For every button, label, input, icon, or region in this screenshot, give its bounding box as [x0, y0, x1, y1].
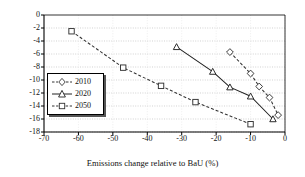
x-axis-tick-label: 0 [283, 135, 287, 143]
legend-marker-diamond-icon [51, 76, 73, 88]
data-point-2020 [210, 68, 216, 74]
data-point-2010 [275, 112, 282, 119]
legend-label-2010: 2010 [73, 78, 91, 86]
data-point-2050 [69, 29, 74, 34]
data-point-2020 [247, 93, 253, 99]
legend-marker-square-icon [51, 100, 73, 112]
series-line-2020 [177, 47, 273, 119]
data-point-2010 [227, 49, 234, 56]
data-point-2050 [193, 99, 198, 104]
chart-legend: 2010 2020 2050 [47, 73, 104, 115]
data-point-2020 [173, 44, 179, 50]
legend-item-2010[interactable]: 2010 [48, 76, 103, 88]
legend-marker-triangle-icon [51, 88, 73, 100]
x-axis-tick-label: -70 [39, 135, 50, 143]
x-axis-tick-label: -40 [142, 135, 153, 143]
legend-item-2020[interactable]: 2020 [48, 88, 103, 100]
legend-label-2050: 2050 [73, 102, 91, 110]
data-point-2050 [248, 122, 253, 127]
data-point-2050 [158, 83, 163, 88]
chart-figure: €/tCO2 0-2-4-6-8-10-12-14-16-18 Emission… [0, 0, 305, 177]
data-point-2050 [120, 65, 125, 70]
x-axis-tick-label: -50 [108, 135, 119, 143]
series-line-2010 [230, 52, 278, 115]
plot-area [0, 0, 305, 177]
x-axis-tick-label: -20 [211, 135, 222, 143]
x-axis-tick-label: -10 [245, 135, 256, 143]
legend-label-2020: 2020 [73, 90, 91, 98]
legend-item-2050[interactable]: 2050 [48, 100, 103, 112]
x-axis-tick-label: -60 [73, 135, 84, 143]
data-point-2010 [256, 83, 263, 90]
x-axis-tick-label: -30 [176, 135, 187, 143]
